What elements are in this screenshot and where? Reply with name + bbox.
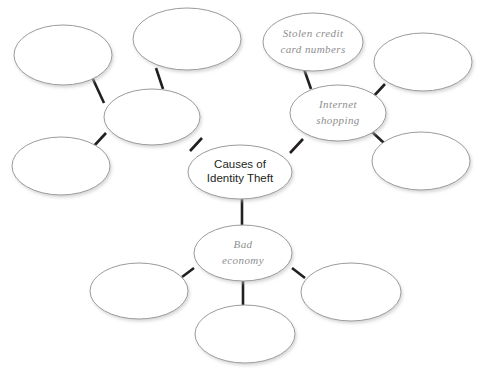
mind-map-canvas: Causes ofIdentity TheftInternetshoppingB… xyxy=(0,0,477,371)
node-leaf-stolen-cards[interactable]: Stolen creditcard numbers xyxy=(263,13,363,71)
connector-hub-left-to-leaf-top-middle xyxy=(156,68,163,89)
connector-center-to-hub-left xyxy=(190,138,202,151)
node-label-center-line2: Identity Theft xyxy=(207,172,274,184)
node-shape-leaf-right-lower xyxy=(372,132,470,190)
node-hub-economy[interactable]: Badeconomy xyxy=(194,225,292,281)
node-shape-leaf-bottom-right xyxy=(301,263,401,321)
node-shape-leaf-right-upper xyxy=(374,33,472,91)
connector-hub-left-to-leaf-top-left xyxy=(92,77,104,103)
node-shape-leaf-bottom-center xyxy=(195,305,295,363)
connector-hub-internet-to-leaf-stolen xyxy=(304,69,311,89)
node-label-hub-internet-line2: shopping xyxy=(316,114,360,126)
node-label-hub-economy-line2: economy xyxy=(222,254,264,266)
node-layer: Causes ofIdentity TheftInternetshoppingB… xyxy=(12,8,472,363)
mind-map-diagram: Causes ofIdentity TheftInternetshoppingB… xyxy=(0,0,477,371)
node-leaf-bottom-center[interactable] xyxy=(195,305,295,363)
node-label-leaf-stolen-cards-line1: Stolen credit xyxy=(283,27,344,39)
node-leaf-bottom-left-upper[interactable] xyxy=(12,137,110,195)
connector-center-to-hub-internet xyxy=(290,139,303,153)
node-shape-leaf-top-middle xyxy=(133,8,241,70)
node-hub-internet[interactable]: Internetshopping xyxy=(290,85,386,141)
node-label-hub-economy-line1: Bad xyxy=(234,238,253,250)
node-shape-leaf-bottom-left-upper xyxy=(12,137,110,195)
connector-hub-economy-to-leaf-bottom-left xyxy=(182,268,194,277)
node-label-center-line1: Causes of xyxy=(214,158,267,170)
connector-hub-economy-to-leaf-bottom-right xyxy=(292,268,305,278)
node-label-leaf-stolen-cards-line2: card numbers xyxy=(280,43,345,55)
node-leaf-right-lower[interactable] xyxy=(372,132,470,190)
node-leaf-top-left[interactable] xyxy=(14,25,112,85)
node-leaf-top-middle[interactable] xyxy=(133,8,241,70)
node-label-hub-internet-line1: Internet xyxy=(318,98,358,110)
node-shape-leaf-bottom-left xyxy=(90,263,188,319)
node-center[interactable]: Causes ofIdentity Theft xyxy=(188,145,292,199)
node-shape-hub-left xyxy=(104,89,200,145)
node-leaf-bottom-left[interactable] xyxy=(90,263,188,319)
node-hub-left[interactable] xyxy=(104,89,200,145)
node-leaf-bottom-right[interactable] xyxy=(301,263,401,321)
connector-hub-internet-to-leaf-right-lower xyxy=(371,131,384,143)
node-shape-leaf-top-left xyxy=(14,25,112,85)
node-leaf-right-upper[interactable] xyxy=(374,33,472,91)
